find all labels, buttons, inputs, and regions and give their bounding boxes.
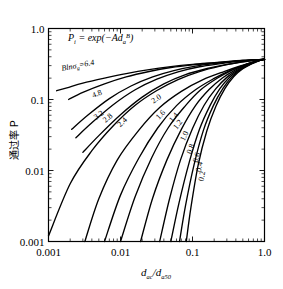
figure-container: 0.0010.010.11.0 0.0010.010.11.0 Pi = exp… xyxy=(0,0,283,289)
y-tick-label: 0.1 xyxy=(31,94,45,106)
curve-label-0-2: 0.2 xyxy=(197,170,208,181)
x-tick-label: 0.01 xyxy=(111,246,130,258)
penetration-ratio-chart: 0.0010.010.11.0 0.0010.010.11.0 Pi = exp… xyxy=(0,0,283,289)
y-axis-title: 通过率 P xyxy=(8,120,20,160)
y-axis-title-text: 通过率 P xyxy=(8,120,20,160)
x-tick-label: 1.0 xyxy=(258,246,272,258)
y-tick-label: 1.0 xyxy=(31,23,45,35)
y-tick-label: 0.001 xyxy=(20,236,45,248)
y-tick-label: 0.01 xyxy=(25,165,44,177)
curve-label-text: 0.2 xyxy=(197,170,208,181)
x-tick-label: 0.1 xyxy=(186,246,200,258)
